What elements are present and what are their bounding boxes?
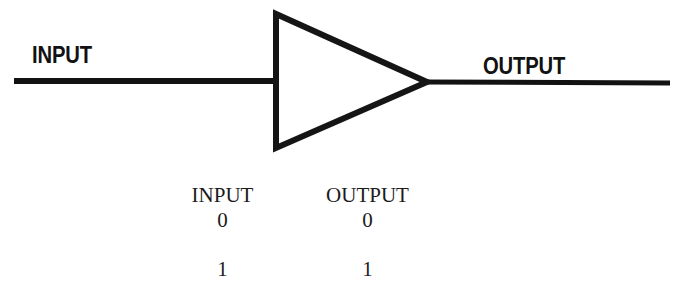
table-row: 1 1: [150, 257, 440, 281]
truth-table-head: INPUT OUTPUT: [150, 183, 440, 208]
output-wire-label: OUTPUT: [483, 55, 565, 78]
table-spacer-cell-left: [150, 232, 295, 257]
gate-schematic-svg: [0, 0, 681, 165]
table-header-row: INPUT OUTPUT: [150, 183, 440, 208]
input-wire-label: INPUT: [32, 44, 92, 67]
table-cell-input-0: 0: [150, 208, 295, 232]
table-header-output: OUTPUT: [295, 183, 440, 208]
table-spacer-row: [150, 232, 440, 257]
table-row: 0 0: [150, 208, 440, 232]
buffer-gate-figure: INPUT OUTPUT INPUT OUTPUT 0 0 1 1: [0, 0, 681, 306]
gate-schematic: INPUT OUTPUT: [0, 0, 681, 165]
table-cell-output-1: 1: [295, 257, 440, 281]
table-cell-output-0: 0: [295, 208, 440, 232]
table-cell-input-1: 1: [150, 257, 295, 281]
truth-table: INPUT OUTPUT 0 0 1 1: [150, 183, 440, 281]
output-wire: [424, 82, 670, 83]
truth-table-body: 0 0 1 1: [150, 208, 440, 281]
table-header-input: INPUT: [150, 183, 295, 208]
buffer-gate-triangle-icon: [276, 14, 427, 148]
table-spacer-cell-right: [295, 232, 440, 257]
